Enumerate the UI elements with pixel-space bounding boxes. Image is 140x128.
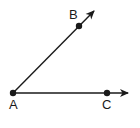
label-a: A bbox=[9, 97, 18, 112]
point-a bbox=[10, 90, 16, 96]
label-c: C bbox=[102, 97, 111, 112]
angle-diagram: A B C bbox=[0, 0, 140, 128]
angle-svg: A B C bbox=[0, 0, 140, 128]
ray-ab bbox=[13, 11, 94, 93]
point-c bbox=[104, 90, 110, 96]
point-b bbox=[76, 23, 82, 29]
label-b: B bbox=[69, 7, 78, 22]
